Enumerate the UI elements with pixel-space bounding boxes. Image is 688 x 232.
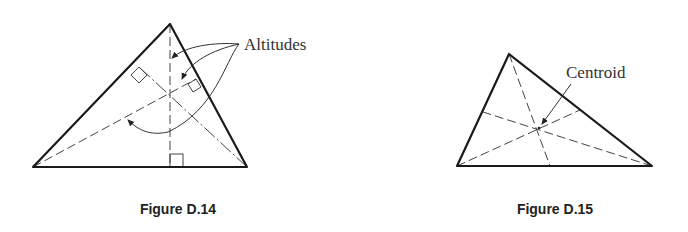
- caption-d15: Figure D.15: [517, 201, 593, 217]
- right-angle-marker-left-side: [131, 67, 147, 83]
- right-angle-marker-base: [170, 154, 183, 167]
- caption-d14: Figure D.14: [140, 201, 216, 217]
- median-from-bottom-left: [457, 110, 580, 166]
- centroid-point: [538, 127, 541, 130]
- median-from-bottom-right: [483, 112, 652, 166]
- altitudes-label: Altitudes: [244, 35, 306, 54]
- centroid-label: Centroid: [566, 63, 626, 82]
- figure-d15: Centroid Figure D.15: [457, 54, 652, 217]
- triangle-d14: [33, 24, 247, 167]
- right-angle-marker-right-side: [188, 79, 201, 92]
- diagram-canvas: Altitudes Figure D.14 Centroid Figure D.…: [0, 0, 688, 232]
- altitude-from-bottom-right: [139, 67, 247, 167]
- figure-d14: Altitudes Figure D.14: [33, 24, 306, 217]
